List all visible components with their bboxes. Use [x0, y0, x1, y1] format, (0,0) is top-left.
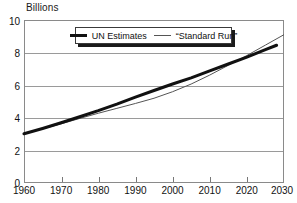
x-tick-label-1970: 1970 — [50, 185, 72, 196]
legend-label-un-estimates: UN Estimates — [92, 31, 147, 41]
x-tick-label-1960: 1960 — [13, 185, 35, 196]
legend-thin-line-swatch-icon — [154, 35, 171, 36]
x-tick-label-1980: 1980 — [87, 185, 109, 196]
legend-entry-standard-run: “Standard Run” — [154, 31, 238, 41]
x-tick-label-1990: 1990 — [124, 185, 146, 196]
legend-entry-un-estimates: UN Estimates — [70, 31, 147, 41]
x-tick-label-2020: 2020 — [236, 185, 258, 196]
x-tick-label-2010: 2010 — [198, 185, 220, 196]
series-line-un-estimates — [24, 45, 277, 134]
x-tick-label-2030: 2030 — [271, 185, 293, 196]
population-projection-chart: Billions 10 8 6 4 2 0 UN Estimates “Stan… — [0, 0, 297, 203]
legend: UN Estimates “Standard Run” — [75, 27, 232, 44]
x-tick-label-2000: 2000 — [161, 185, 183, 196]
legend-label-standard-run: “Standard Run” — [176, 31, 238, 41]
x-axis-tick-labels: 1960 1970 1980 1990 2000 2010 2020 2030 — [0, 185, 297, 203]
series-line-standard-run — [24, 35, 284, 134]
legend-thick-line-swatch-icon — [70, 34, 87, 37]
